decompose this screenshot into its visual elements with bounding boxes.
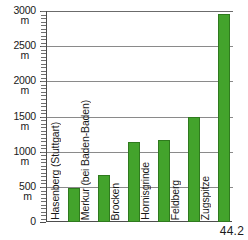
y-tick-label-3000: 3000m [13, 5, 36, 25]
bar[interactable] [68, 188, 80, 222]
bar[interactable] [188, 117, 200, 222]
y-tick-unit: m [13, 121, 36, 131]
y-tick-unit: m [13, 50, 36, 60]
bar-slot: Feldberg [171, 11, 200, 222]
y-tick-mark-0 [40, 222, 46, 223]
y-axis: 3000m2500m2000m1500m1000m500m0 [0, 0, 46, 240]
y-tick-label-0: 0 [30, 216, 36, 226]
y-tick-label-1500: 1500m [13, 111, 36, 131]
bar[interactable] [158, 140, 170, 222]
bar-category-label: Zugspitze [200, 176, 211, 220]
y-tick-unit: m [19, 191, 36, 201]
bar-slot: Hornisgrinde [141, 11, 170, 222]
bar-category-label: Merkur (bei Baden-Baden) [80, 100, 91, 220]
bar[interactable] [218, 14, 230, 222]
bar-category-label: Hasenberg (Stuttgart) [50, 122, 61, 220]
bar-slot: Zugspitze [201, 11, 230, 222]
y-tick-label-1000: 1000m [13, 146, 36, 166]
y-tick-unit: m [13, 85, 36, 95]
bar-category-label: Hornisgrinde [140, 162, 151, 220]
bar-category-label: Brocken [110, 183, 121, 220]
bar-category-label: Feldberg [170, 180, 181, 220]
bar[interactable] [98, 175, 110, 222]
bar-slot: Brocken [111, 11, 140, 222]
y-tick-unit: m [13, 156, 36, 166]
bar-chart-figure: 3000m2500m2000m1500m1000m500m0 Hasenberg… [0, 0, 248, 240]
y-tick-unit: m [13, 15, 36, 25]
y-tick-label-500: 500m [19, 181, 36, 201]
bar-slot: Merkur (bei Baden-Baden) [81, 11, 110, 222]
y-tick-value: 0 [30, 215, 36, 227]
figure-number: 44.2 [220, 224, 244, 238]
bar[interactable] [128, 142, 140, 222]
bar-series: Hasenberg (Stuttgart)Merkur (bei Baden-B… [46, 11, 232, 222]
y-tick-label-2500: 2500m [13, 40, 36, 60]
bar-slot: Hasenberg (Stuttgart) [51, 11, 80, 222]
y-tick-label-2000: 2000m [13, 75, 36, 95]
